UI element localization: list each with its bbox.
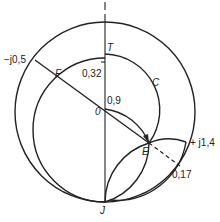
label-f: F (55, 68, 62, 79)
label-t: T (107, 42, 114, 53)
label-e: E (142, 146, 149, 157)
label-c: C (152, 77, 160, 88)
label-minus-j05: −j0,5 (4, 54, 26, 65)
label-0-32: 0,32 (82, 68, 102, 79)
label-0-9: 0,9 (107, 95, 121, 106)
smith-chart-diagram: −j0,5 F T 0,32 C 0 0,9 E + j1,4 0,17 J (0, 0, 220, 222)
label-j: J (99, 205, 106, 216)
inner-circle-left-arc (33, 58, 105, 202)
label-o: 0 (95, 106, 101, 117)
label-plus-j14: + j1,4 (190, 137, 215, 148)
label-0-17: 0,17 (172, 169, 192, 180)
radial-line-dashed (149, 143, 180, 166)
